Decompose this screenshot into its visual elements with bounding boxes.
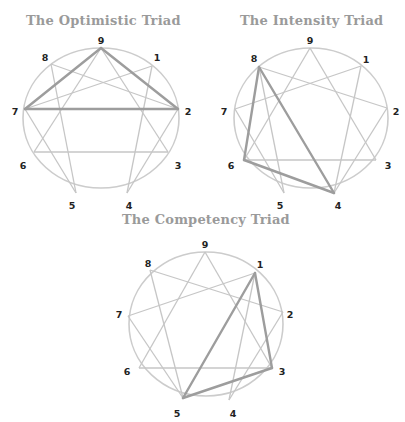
- point-label-1: 1: [257, 259, 264, 270]
- connector-line: [128, 273, 255, 316]
- point-label-7: 7: [116, 309, 123, 320]
- point-label-6: 6: [124, 366, 131, 377]
- triad-highlight-line: [244, 160, 334, 193]
- enneagram-2: 123456789: [116, 239, 294, 419]
- point-label-2: 2: [287, 309, 294, 320]
- triad-highlight-line: [259, 67, 334, 193]
- point-label-1: 1: [154, 52, 161, 63]
- connector-line: [101, 48, 168, 152]
- point-label-6: 6: [20, 160, 27, 171]
- point-label-1: 1: [363, 54, 370, 65]
- point-label-5: 5: [277, 200, 284, 211]
- point-label-3: 3: [175, 160, 182, 171]
- enneagram-0: 123456789: [12, 35, 192, 211]
- point-label-6: 6: [228, 160, 235, 171]
- enneagram-circle: [129, 252, 283, 396]
- point-label-9: 9: [98, 35, 105, 46]
- point-label-5: 5: [174, 408, 181, 419]
- point-label-7: 7: [221, 106, 228, 117]
- connector-line: [128, 316, 183, 398]
- point-label-4: 4: [335, 200, 342, 211]
- point-label-5: 5: [69, 200, 76, 211]
- point-label-8: 8: [42, 52, 49, 63]
- point-label-4: 4: [126, 200, 133, 211]
- point-label-9: 9: [202, 239, 209, 250]
- point-label-9: 9: [307, 35, 314, 46]
- enneagram-circle: [234, 48, 388, 188]
- point-label-8: 8: [145, 258, 152, 269]
- connector-line: [34, 48, 101, 152]
- connector-line: [139, 252, 205, 368]
- point-label-3: 3: [385, 160, 392, 171]
- enneagram-diagrams: 123456789123456789123456789: [0, 0, 405, 422]
- connector-line: [310, 48, 376, 160]
- point-label-3: 3: [279, 366, 286, 377]
- point-label-7: 7: [12, 106, 19, 117]
- point-label-2: 2: [393, 106, 400, 117]
- enneagram-1: 123456789: [221, 35, 400, 211]
- point-label-8: 8: [251, 53, 258, 64]
- point-label-2: 2: [185, 106, 192, 117]
- point-label-4: 4: [230, 408, 237, 419]
- enneagram-circle: [23, 48, 179, 188]
